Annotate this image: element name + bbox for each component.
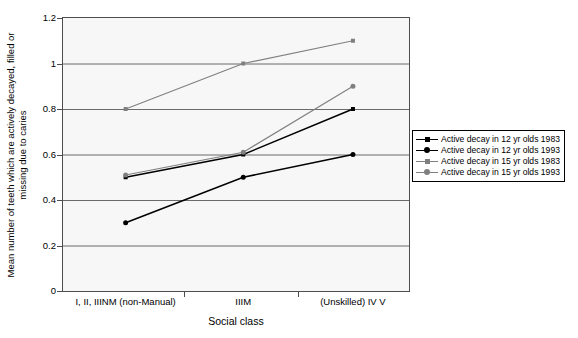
plot-area: [62, 17, 410, 292]
data-point-marker: [350, 152, 355, 157]
x-tick-mark: [298, 292, 299, 297]
x-tick-label: (Unskilled) IV V: [320, 296, 385, 307]
plot-canvas: [63, 18, 409, 291]
legend-marker-icon: [416, 167, 438, 178]
legend-label: Active decay in 15 yr olds 1993: [441, 167, 560, 178]
y-tick-label: 0.8: [16, 103, 56, 114]
legend-marker-icon: [416, 156, 438, 167]
data-point-marker: [351, 107, 355, 111]
series-line: [126, 155, 353, 223]
data-series: [124, 39, 355, 111]
data-point-marker: [350, 84, 355, 89]
legend-marker-icon: [416, 145, 438, 156]
data-series-layer: [123, 39, 355, 226]
y-tick-label: 0: [16, 285, 56, 296]
data-point-marker: [123, 220, 128, 225]
x-axis-title: Social class: [62, 315, 410, 327]
chart-legend: Active decay in 12 yr olds 1983Active de…: [412, 130, 565, 182]
data-series: [123, 84, 355, 178]
x-tick-label: I, II, IIINM (non-Manual): [75, 296, 175, 307]
legend-item[interactable]: Active decay in 12 yr olds 1983: [416, 134, 560, 145]
legend-marker-icon: [416, 134, 438, 145]
legend-label: Active decay in 15 yr olds 1983: [441, 156, 560, 167]
y-tick-label: 0.6: [16, 149, 56, 160]
legend-label: Active decay in 12 yr olds 1983: [441, 134, 560, 145]
y-tick-label: 0.4: [16, 194, 56, 205]
y-tick-label: 0.2: [16, 240, 56, 251]
y-axis-title-line1: Mean number of teeth which are actively …: [5, 32, 16, 277]
series-line: [126, 41, 353, 109]
data-point-marker: [241, 62, 245, 66]
legend-item[interactable]: Active decay in 15 yr olds 1993: [416, 167, 560, 178]
series-line: [126, 109, 353, 177]
legend-label: Active decay in 12 yr olds 1993: [441, 145, 560, 156]
data-series: [123, 152, 355, 225]
chart-figure: Mean number of teeth which are actively …: [0, 0, 578, 338]
legend-item[interactable]: Active decay in 12 yr olds 1993: [416, 145, 560, 156]
data-point-marker: [241, 150, 246, 155]
data-point-marker: [351, 39, 355, 43]
x-tick-label: IIIM: [235, 296, 251, 307]
data-point-marker: [123, 172, 128, 177]
data-point-marker: [124, 107, 128, 111]
y-tick-label: 1: [16, 58, 56, 69]
legend-item[interactable]: Active decay in 15 yr olds 1983: [416, 156, 560, 167]
gridlines: [63, 64, 409, 246]
data-point-marker: [241, 175, 246, 180]
y-tick-label: 1.2: [16, 12, 56, 23]
x-tick-mark: [184, 292, 185, 297]
